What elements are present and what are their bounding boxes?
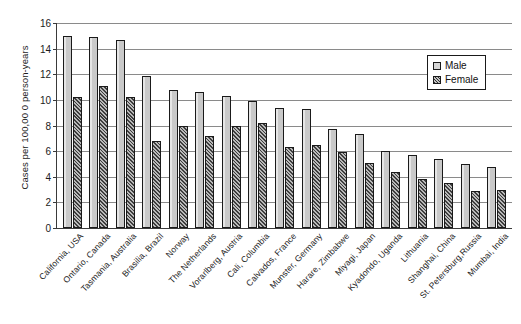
bar-female	[391, 172, 400, 228]
bar-female	[126, 97, 135, 228]
bar-male	[461, 164, 470, 228]
bar-group	[139, 23, 166, 228]
y-tick-label: 8	[45, 120, 51, 131]
bar-male	[355, 134, 364, 228]
y-tick-label: 16	[40, 18, 51, 29]
bar-male	[89, 37, 98, 228]
bar-group	[86, 23, 113, 228]
bar-female	[152, 141, 161, 228]
y-tick-label: 4	[45, 171, 51, 182]
bar-female	[73, 97, 82, 228]
bar-female	[205, 136, 214, 228]
bar-group	[218, 23, 245, 228]
legend-item-male: Male	[433, 60, 478, 71]
bar-male	[222, 96, 231, 228]
bar-female	[312, 145, 321, 228]
bar-male	[142, 76, 151, 228]
bar-group	[59, 23, 86, 228]
bar-female	[497, 190, 506, 228]
legend-swatch-male	[433, 62, 441, 70]
legend: Male Female	[427, 55, 486, 90]
bar-group	[484, 23, 511, 228]
bar-male	[408, 155, 417, 228]
bar-group	[298, 23, 325, 228]
bar-male	[275, 108, 284, 228]
bar-male	[328, 129, 337, 228]
bar-female	[418, 179, 427, 228]
bar-group	[404, 23, 431, 228]
bar-female	[471, 191, 480, 228]
bar-group	[430, 23, 457, 228]
y-tick-label: 14	[40, 43, 51, 54]
y-tick-label: 12	[40, 69, 51, 80]
bar-female	[285, 147, 294, 228]
bar-group	[351, 23, 378, 228]
legend-label-male: Male	[445, 60, 467, 71]
bar-male	[63, 36, 72, 228]
bar-group	[165, 23, 192, 228]
bar-female	[444, 183, 453, 228]
bar-female	[232, 126, 241, 229]
bar-female	[258, 123, 267, 228]
bar-group	[377, 23, 404, 228]
y-tick-label: 0	[45, 223, 51, 234]
bar-female	[338, 152, 347, 228]
x-axis-category-labels: California, USAOntario, CanadaTasmania, …	[56, 229, 511, 324]
bar-male	[116, 40, 125, 228]
y-tick-label: 10	[40, 94, 51, 105]
bar-female	[365, 163, 374, 228]
bar-male	[248, 101, 257, 228]
y-axis-title: Cases per 100,00 0 person-years	[19, 18, 30, 218]
bar-male	[434, 159, 443, 228]
bar-male	[381, 151, 390, 228]
bar-group	[324, 23, 351, 228]
bar-female	[179, 126, 188, 229]
legend-swatch-female	[433, 76, 441, 84]
legend-label-female: Female	[445, 74, 478, 85]
legend-item-female: Female	[433, 74, 478, 85]
plot-area: 0246810121416	[56, 23, 512, 229]
bars-container	[57, 23, 512, 228]
y-tick-label: 6	[45, 146, 51, 157]
bar-male	[487, 167, 496, 229]
bar-group	[271, 23, 298, 228]
y-tick-label: 2	[45, 197, 51, 208]
bar-chart: Cases per 100,00 0 person-years 02468101…	[0, 0, 521, 324]
bar-female	[99, 86, 108, 228]
bar-group	[192, 23, 219, 228]
bar-group	[457, 23, 484, 228]
bar-group	[245, 23, 272, 228]
bar-male	[302, 109, 311, 228]
bar-group	[112, 23, 139, 228]
bar-male	[169, 90, 178, 228]
bar-male	[195, 92, 204, 228]
